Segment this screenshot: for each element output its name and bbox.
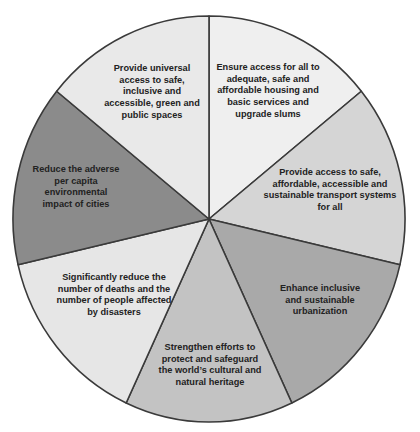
slice-label-housing: Ensure access for all to adequate, safe …: [212, 62, 324, 121]
slice-label-urbanization: Enhance inclusive and sustainable urbani…: [272, 283, 368, 318]
slice-label-environmental-impact: Reduce the adverse per capita environmen…: [26, 164, 126, 211]
slice-label-heritage: Strengthen efforts to protect and safegu…: [153, 342, 267, 389]
slice-label-disasters: Significantly reduce the number of death…: [52, 272, 176, 319]
slice-label-transport: Provide access to safe, affordable, acce…: [262, 167, 398, 214]
slice-label-public-spaces: Provide universal access to safe, inclus…: [104, 63, 200, 122]
